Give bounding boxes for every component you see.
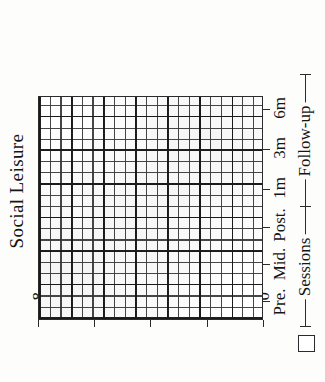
figure-panel: Social Leisure 8 6 4 2 0 xyxy=(0,0,325,382)
x-tick-mark-post xyxy=(263,227,270,228)
y-tick-mark-6 xyxy=(94,320,95,327)
group-label-sessions: Sessions xyxy=(296,235,313,300)
followup-bracket-cap-right xyxy=(300,74,311,75)
page-title: Social Leisure xyxy=(6,10,28,372)
grid-major xyxy=(39,97,262,319)
x-tick-mark-mid xyxy=(263,264,270,265)
group-label-followup: Follow-up xyxy=(296,103,313,180)
plot-frame xyxy=(38,96,263,320)
y-tick-mark-8 xyxy=(38,320,39,327)
group-bracket-row: Sessions Follow-up xyxy=(296,10,322,372)
rotated-figure-stage: Social Leisure 8 6 4 2 0 xyxy=(4,10,322,372)
x-tick-label-post: Post. xyxy=(271,208,288,242)
sessions-bracket-cap-left xyxy=(300,326,311,327)
x-tick-label-1m: 1m xyxy=(271,177,288,199)
y-tick-mark-4 xyxy=(150,320,151,327)
open-square-icon xyxy=(298,335,315,352)
x-tick-label-pre: Pre. xyxy=(271,289,288,316)
x-tick-label-3m: 3m xyxy=(271,137,288,159)
plot-area xyxy=(38,96,263,320)
y-tick-mark-2 xyxy=(207,320,208,327)
x-tick-mark-3m xyxy=(263,149,270,150)
x-tick-mark-6m xyxy=(263,109,270,110)
x-tick-label-6m: 6m xyxy=(271,97,288,119)
x-tick-label-mid: Mid. xyxy=(271,248,288,281)
y-tick-mark-0 xyxy=(263,320,264,327)
x-tick-mark-1m xyxy=(263,189,270,190)
x-tick-mark-pre xyxy=(263,301,270,302)
